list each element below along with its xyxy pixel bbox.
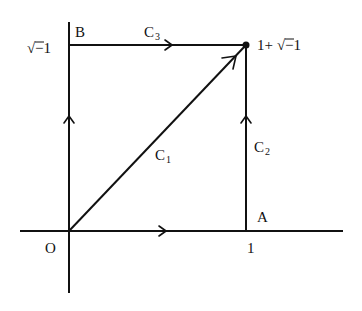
label-b: B [75,24,85,40]
label-end-minus-one: −1 [285,37,301,53]
label-c1-subscript: 1 [166,154,171,165]
label-x-tick-one: 1 [247,240,255,256]
label-origin: O [45,240,56,256]
label-c2-letter: C [254,139,264,155]
label-c1-letter: C [155,147,165,163]
label-sqrt-minus-one: √ −1 [27,40,51,56]
path-c1 [69,45,246,231]
label-endpoint: 1+ √ −1 [257,37,301,53]
label-c2-subscript: 2 [265,146,270,157]
label-end-prefix: 1+ [257,37,273,53]
label-c2: C 2 [254,139,270,157]
endpoint-dot [243,42,250,49]
label-c1: C 1 [155,147,171,165]
complex-plane-diagram: B √ −1 C 3 1+ √ −1 C 1 C 2 A O 1 [0,0,362,311]
label-c3-subscript: 3 [155,31,160,42]
label-c3-letter: C [144,24,154,40]
label-minus-one: −1 [35,40,51,56]
label-c3: C 3 [144,24,160,42]
label-a: A [257,209,268,225]
